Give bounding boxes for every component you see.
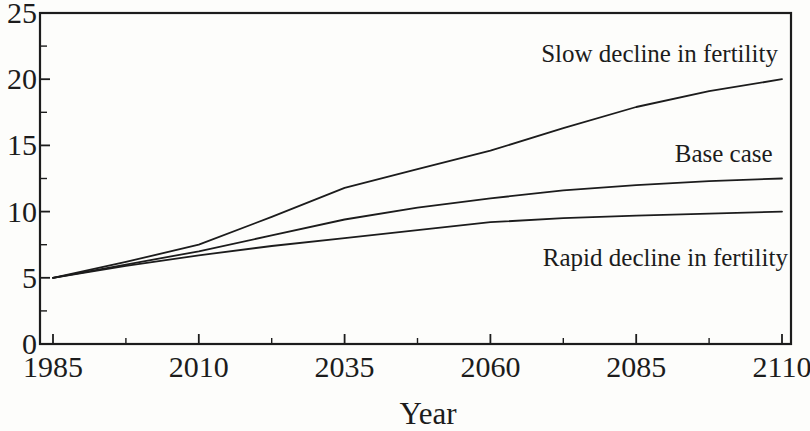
y-tick-label: 25	[0, 0, 37, 28]
y-tick-label: 10	[0, 197, 37, 227]
y-tick-label: 5	[0, 263, 37, 293]
x-tick-label: 2010	[169, 352, 229, 382]
x-axis-title: Year	[399, 398, 456, 429]
y-tick-label: 20	[0, 64, 37, 94]
annotation-rapid-decline-in-fertility: Rapid decline in fertility	[543, 243, 788, 270]
x-tick-label: 2110	[753, 352, 810, 382]
x-tick-label: 2085	[606, 352, 666, 382]
figure-population-projections: 1985201020352060208521100510152025 Slow …	[0, 0, 810, 431]
y-tick-label: 0	[0, 329, 37, 359]
y-tick-label: 15	[0, 130, 37, 160]
x-tick-label: 2035	[315, 352, 375, 382]
x-tick-label: 2060	[460, 352, 520, 382]
annotation-slow-decline-in-fertility: Slow decline in fertility	[541, 39, 778, 66]
annotation-base-case: Base case	[675, 140, 773, 167]
